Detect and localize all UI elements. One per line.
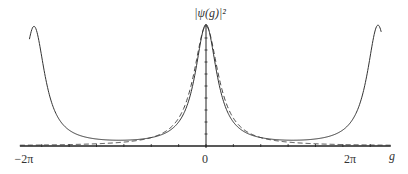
axes [20, 24, 391, 148]
series-layer [20, 25, 391, 146]
series-line-exact [29, 25, 381, 141]
x-tick-label-2pi: 2π [344, 152, 356, 166]
x-tick-label-neg-2pi: −2π [15, 152, 34, 166]
chart: −2π 0 2π g |ψ(g)|² [0, 0, 408, 174]
y-axis-title: |ψ(g)|² [194, 6, 226, 20]
x-tick-label-zero: 0 [202, 152, 208, 166]
x-axis-title: g [389, 149, 395, 163]
